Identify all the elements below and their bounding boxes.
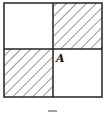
cell-bottom-left-hatched [4,49,53,97]
point-label-a: A [56,53,65,64]
cell-top-right-hatched [53,3,102,49]
grid-diagram [0,0,106,113]
